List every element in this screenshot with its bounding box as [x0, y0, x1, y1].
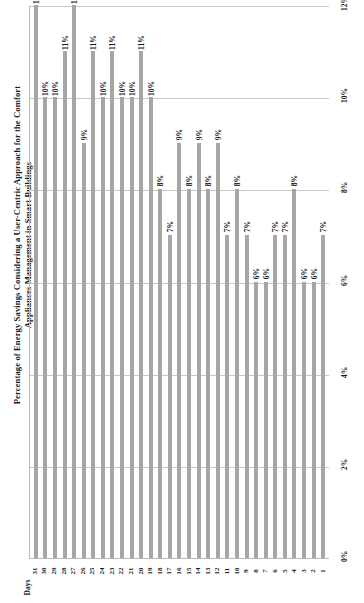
bar	[206, 189, 210, 558]
bar-item[interactable]: 9%	[213, 6, 223, 558]
category-tick-label: 3	[300, 569, 308, 573]
category-tick-label: 12	[213, 568, 221, 575]
bar	[158, 189, 162, 558]
bar-item[interactable]: 9%	[194, 6, 204, 558]
bar	[168, 235, 172, 558]
category-tick-label: 9	[242, 569, 250, 573]
category-tick-label: 18	[156, 568, 164, 575]
bar-item[interactable]: 8%	[203, 6, 213, 558]
bar-item[interactable]: 10%	[127, 6, 137, 558]
category-tick-label: 26	[79, 568, 87, 575]
category-tick: 5	[280, 560, 290, 582]
bar	[120, 97, 124, 558]
category-tick-label: 25	[88, 568, 96, 575]
category-tick-label: 1	[319, 569, 327, 573]
bar-item[interactable]: 6%	[299, 6, 309, 558]
category-tick: 20	[136, 560, 146, 582]
bar	[34, 5, 38, 558]
bar-value-label: 7%	[280, 221, 289, 232]
bar-item[interactable]: 7%	[280, 6, 290, 558]
bar-value-label: 7%	[319, 221, 328, 232]
bar-item[interactable]: 7%	[318, 6, 328, 558]
category-tick: 12	[213, 560, 223, 582]
bar-value-label: 11%	[60, 35, 69, 50]
bar-value-label: 9%	[79, 129, 88, 140]
bar	[254, 282, 258, 559]
category-tick: 9	[241, 560, 251, 582]
category-tick: 10	[232, 560, 242, 582]
category-tick: 8	[251, 560, 261, 582]
bar-value-label: 10%	[50, 81, 59, 96]
bar-item[interactable]: 11%	[136, 6, 146, 558]
bar	[292, 189, 296, 558]
category-tick: 24	[97, 560, 107, 582]
category-tick-label: 2	[309, 569, 317, 573]
category-tick: 7	[261, 560, 271, 582]
category-tick: 11	[222, 560, 232, 582]
bar-item[interactable]: 10%	[146, 6, 156, 558]
value-axis-tick: 2%	[331, 460, 357, 474]
bar-value-label: 6%	[252, 267, 261, 278]
category-tick-label: 31	[31, 568, 39, 575]
category-tick-label: 14	[194, 568, 202, 575]
category-tick: 13	[203, 560, 213, 582]
bar	[235, 189, 239, 558]
bar	[53, 97, 57, 558]
category-tick: 16	[174, 560, 184, 582]
bar-item[interactable]: 7%	[223, 6, 233, 558]
bar	[82, 143, 86, 558]
bar-item[interactable]: 7%	[165, 6, 175, 558]
category-tick: 4	[289, 560, 299, 582]
category-tick: 14	[193, 560, 203, 582]
bar-item[interactable]: 12%	[69, 6, 79, 558]
bar-item[interactable]: 11%	[108, 6, 118, 558]
bar-value-label: 11%	[89, 35, 98, 50]
value-axis-tick-label: 2%	[340, 451, 349, 477]
bar-item[interactable]: 7%	[242, 6, 252, 558]
bar-item[interactable]: 9%	[79, 6, 89, 558]
category-tick-label: 23	[108, 568, 116, 575]
bar	[264, 282, 268, 559]
bar-value-label: 8%	[185, 175, 194, 186]
bar	[273, 235, 277, 558]
bar	[225, 235, 229, 558]
bar	[149, 97, 153, 558]
bar-value-label: 7%	[165, 221, 174, 232]
bar-value-label: 6%	[309, 267, 318, 278]
bar-item[interactable]: 11%	[88, 6, 98, 558]
bar	[101, 97, 105, 558]
bar-item[interactable]: 8%	[232, 6, 242, 558]
bar-item[interactable]: 10%	[117, 6, 127, 558]
value-axis-tick: 0%	[331, 552, 357, 566]
bar-value-label: 12%	[70, 0, 79, 4]
value-axis-tick: 8%	[331, 183, 357, 197]
bar-item[interactable]: 10%	[41, 6, 51, 558]
bar-item[interactable]: 10%	[50, 6, 60, 558]
category-tick-label: 20	[137, 568, 145, 575]
bar-item[interactable]: 10%	[98, 6, 108, 558]
bar	[312, 282, 316, 559]
bar-item[interactable]: 8%	[156, 6, 166, 558]
bar-item[interactable]: 11%	[60, 6, 70, 558]
category-tick-label: 11	[223, 568, 231, 575]
bar-item[interactable]: 6%	[309, 6, 319, 558]
bar-item[interactable]: 8%	[184, 6, 194, 558]
value-axis-tick: 4%	[331, 368, 357, 382]
bar-item[interactable]: 12%	[31, 6, 41, 558]
bar-value-label: 10%	[41, 81, 50, 96]
category-tick-label: 24	[98, 568, 106, 575]
value-axis-tick-label: 0%	[340, 544, 349, 570]
bar-item[interactable]: 6%	[261, 6, 271, 558]
bar-item[interactable]: 9%	[175, 6, 185, 558]
bar-item[interactable]: 7%	[270, 6, 280, 558]
bar-item[interactable]: 8%	[290, 6, 300, 558]
value-axis-tick: 12%	[331, 0, 357, 13]
bar	[216, 143, 220, 558]
bar-value-label: 12%	[31, 0, 40, 4]
bar-item[interactable]: 6%	[251, 6, 261, 558]
category-tick: 15	[184, 560, 194, 582]
bar-value-label: 8%	[290, 175, 299, 186]
value-axis-tick: 6%	[331, 276, 357, 290]
bar-value-label: 11%	[108, 35, 117, 50]
plot-area: 12%10%10%11%12%9%11%10%11%10%10%11%10%8%…	[29, 6, 329, 559]
